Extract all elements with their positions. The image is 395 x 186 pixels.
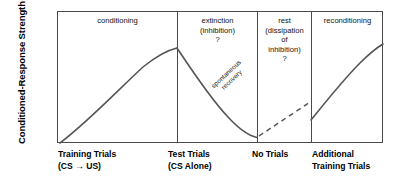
extinction-curve	[177, 48, 257, 138]
x-group-2-line1: Test Trials	[168, 149, 210, 159]
y-axis-label: Conditioned-Response Strength	[16, 0, 27, 148]
x-group-3-line1: No Trials	[252, 149, 288, 159]
x-group-4-line2: Training Trials	[312, 161, 370, 173]
x-axis-group-test-trials: Test Trials (CS Alone)	[168, 149, 212, 172]
curve-layer	[58, 12, 384, 144]
x-axis-group-additional-training-trials: Additional Training Trials	[312, 149, 370, 172]
x-group-4-line1: Additional	[312, 149, 354, 159]
x-group-2-line2: (CS Alone)	[168, 161, 212, 173]
spontaneous-recovery-dashed-line	[259, 102, 310, 136]
x-group-1-line2: (CS → US)	[58, 161, 116, 173]
x-axis-group-no-trials: No Trials	[252, 149, 288, 161]
reconditioning-curve	[311, 44, 383, 120]
conditioning-curve-figure: Conditioned-Response Strength conditioni…	[0, 0, 395, 186]
x-group-1-line1: Training Trials	[58, 149, 116, 159]
acquisition-curve	[60, 48, 177, 143]
plot-area: conditioning extinction (inhibition) ? r…	[57, 11, 383, 143]
x-axis-group-training-trials: Training Trials (CS → US)	[58, 149, 116, 172]
